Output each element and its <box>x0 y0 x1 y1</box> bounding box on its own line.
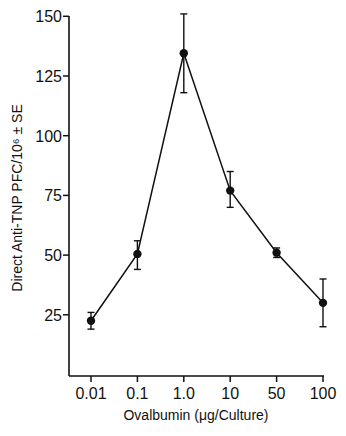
marker-dot-icon <box>133 250 141 258</box>
x-tick-label: 0.1 <box>126 385 148 402</box>
data-point <box>226 172 234 208</box>
y-tick-label: 50 <box>44 247 62 264</box>
y-tick-label: 100 <box>35 128 62 145</box>
series-line <box>91 53 323 320</box>
data-point <box>180 14 188 93</box>
x-ticks: 0.010.11.01050100 <box>75 376 336 402</box>
data-point <box>319 279 327 327</box>
marker-dot-icon <box>87 317 95 325</box>
y-axis-title: Direct Anti-TNP PFC/10⁶ ± SE <box>9 104 25 291</box>
x-tick-label: 10 <box>221 385 239 402</box>
y-tick-label: 150 <box>35 8 62 25</box>
y-tick-label: 75 <box>44 187 62 204</box>
y-tick-label: 25 <box>44 307 62 324</box>
y-tick-label: 125 <box>35 68 62 85</box>
data-point <box>133 241 141 270</box>
marker-dot-icon <box>180 49 188 57</box>
y-ticks: 255075100125150 <box>35 8 69 324</box>
x-tick-label: 0.01 <box>75 385 106 402</box>
x-tick-label: 100 <box>310 385 337 402</box>
x-axis-title: Ovalbumin (μg/Culture) <box>123 407 268 423</box>
x-tick-label: 1.0 <box>173 385 195 402</box>
data-point <box>87 312 95 329</box>
marker-dot-icon <box>319 299 327 307</box>
chart: 255075100125150 0.010.11.01050100 Ovalbu… <box>0 0 346 436</box>
x-tick-label: 50 <box>268 385 286 402</box>
marker-dot-icon <box>272 249 280 257</box>
marker-dot-icon <box>226 186 234 194</box>
axes <box>69 16 324 376</box>
data-series <box>87 14 327 329</box>
